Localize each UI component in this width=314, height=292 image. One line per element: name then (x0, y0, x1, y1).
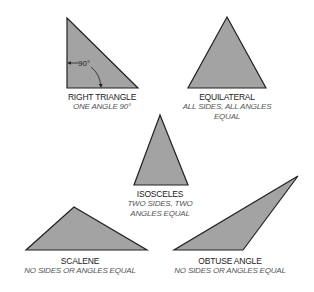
isosceles-desc-line1: TWO SIDES, TWO (110, 199, 210, 209)
triangle-diagram: 90° (0, 0, 314, 292)
equilateral-desc-line1: ALL SIDES, ALL ANGLES (172, 102, 282, 112)
right-triangle-desc: ONE ANGLE 90° (52, 102, 152, 112)
scalene-desc: NO SIDES OR ANGLES EQUAL (12, 266, 148, 276)
equilateral-triangle-shape (188, 17, 266, 88)
isosceles-label: ISOSCELES TWO SIDES, TWO ANGLES EQUAL (110, 189, 210, 219)
obtuse-label: OBTUSE ANGLE NO SIDES OR ANGLES EQUAL (162, 256, 298, 276)
right-triangle-name: RIGHT TRIANGLE (52, 92, 152, 102)
obtuse-desc: NO SIDES OR ANGLES EQUAL (162, 266, 298, 276)
right-angle-label: 90° (78, 59, 90, 68)
isosceles-name: ISOSCELES (110, 189, 210, 199)
right-triangle-shape (67, 18, 138, 88)
equilateral-label: EQUILATERAL ALL SIDES, ALL ANGLES EQUAL (172, 92, 282, 122)
equilateral-name: EQUILATERAL (172, 92, 282, 102)
isosceles-desc-line2: ANGLES EQUAL (110, 209, 210, 219)
equilateral-desc-line2: EQUAL (172, 112, 282, 122)
scalene-label: SCALENE NO SIDES OR ANGLES EQUAL (12, 256, 148, 276)
isosceles-triangle-shape (134, 115, 188, 185)
obtuse-name: OBTUSE ANGLE (162, 256, 298, 266)
scalene-name: SCALENE (12, 256, 148, 266)
right-triangle-label: RIGHT TRIANGLE ONE ANGLE 90° (52, 92, 152, 112)
